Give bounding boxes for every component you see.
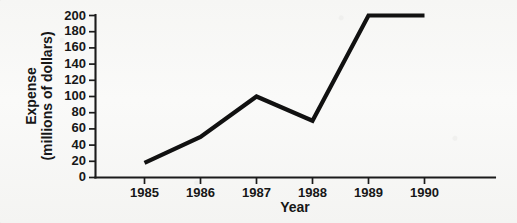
y-tick-label-80: 80 [72, 104, 86, 119]
expense-series-line [145, 16, 425, 163]
x-tick-label-1990: 1990 [410, 185, 439, 200]
y-tick-label-200: 200 [64, 8, 86, 23]
y-tick-label-40: 40 [72, 137, 86, 152]
y-tick-label-20: 20 [72, 153, 86, 168]
chart-figure: 0 20 40 60 80 100 120 140 160 180 200 19… [0, 0, 517, 223]
y-axis-title-line2: (millions of dollars) [39, 31, 55, 160]
x-axis-tick-labels: 1985 1986 1987 1988 1989 1990 [130, 185, 439, 200]
y-axis-title: Expense (millions of dollars) [23, 31, 55, 160]
x-tick-label-1985: 1985 [130, 185, 159, 200]
y-tick-label-0: 0 [79, 169, 86, 184]
axes-group [96, 15, 496, 178]
y-axis-ticks [89, 16, 95, 178]
y-tick-label-60: 60 [72, 120, 86, 135]
y-axis-tick-labels: 0 20 40 60 80 100 120 140 160 180 200 [64, 8, 86, 184]
y-tick-label-160: 160 [64, 39, 86, 54]
x-axis-title: Year [280, 199, 310, 215]
x-tick-label-1989: 1989 [354, 185, 383, 200]
line-chart-canvas: 0 20 40 60 80 100 120 140 160 180 200 19… [0, 0, 517, 223]
y-tick-label-180: 180 [64, 23, 86, 38]
y-axis-title-line1: Expense [23, 67, 39, 125]
y-tick-label-100: 100 [64, 88, 86, 103]
y-tick-label-140: 140 [64, 56, 86, 71]
y-tick-label-120: 120 [64, 72, 86, 87]
x-tick-label-1986: 1986 [186, 185, 215, 200]
x-tick-label-1987: 1987 [242, 185, 271, 200]
x-tick-label-1988: 1988 [298, 185, 327, 200]
